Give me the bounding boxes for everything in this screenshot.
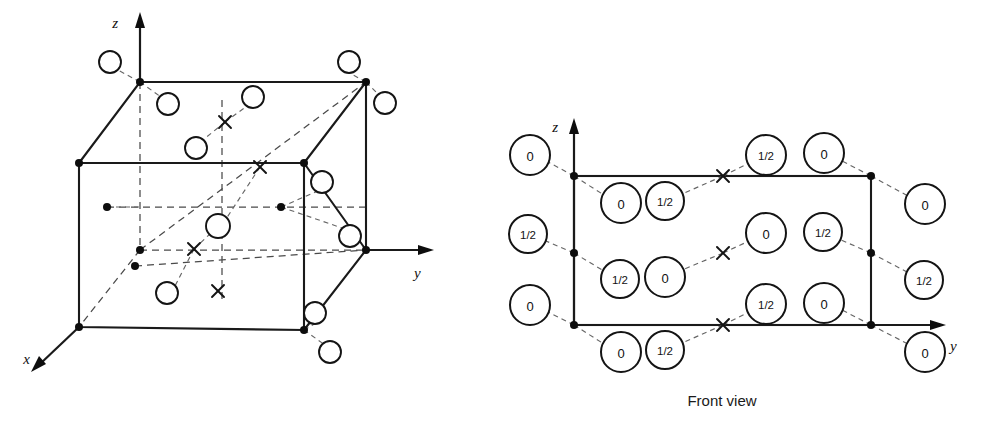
site-half-bottom-inner: 1/2	[646, 331, 684, 369]
tie-line	[682, 176, 723, 194]
lattice-point	[362, 78, 370, 86]
lattice-point	[136, 246, 144, 254]
site-value: 1/2	[916, 275, 932, 287]
site-value: 0	[617, 346, 624, 361]
z-axis-label-3d: z	[111, 15, 118, 31]
x-mark	[219, 116, 231, 128]
lattice-point	[362, 246, 370, 254]
site-value: 1/2	[758, 150, 774, 162]
site-half-mid-left-inner: 1/2	[601, 260, 639, 298]
tie-line	[548, 162, 574, 176]
tie-line	[682, 325, 723, 343]
z-axis-label-front: z	[551, 119, 558, 135]
x-axis-arrowhead	[31, 356, 46, 372]
x-axis-label-3d: x	[22, 351, 30, 367]
site-value: 0	[661, 271, 668, 286]
lattice-point	[75, 323, 83, 331]
site-value: 0	[526, 299, 533, 314]
z-axis-arrowhead-front	[569, 118, 579, 134]
atom-circle	[374, 92, 396, 114]
atom-circle	[242, 86, 264, 108]
lattice-point	[300, 159, 308, 167]
tie-line	[723, 163, 749, 176]
site-value: 0	[526, 149, 533, 164]
lattice-point	[570, 249, 578, 257]
lattice-point	[867, 321, 875, 329]
tie-line	[842, 161, 871, 176]
atom-circle	[99, 51, 121, 73]
lattice-point	[570, 172, 578, 180]
site-value: 0	[921, 346, 928, 361]
tie-line	[281, 207, 345, 229]
x-mark	[212, 285, 224, 297]
site-value: 0	[921, 198, 928, 213]
site-half-mid-left-outer: 1/2	[509, 215, 547, 253]
lattice-point-interior	[277, 203, 285, 211]
y-axis-arrowhead-3d	[418, 245, 434, 255]
y-axis-arrowhead-front	[930, 320, 946, 330]
lattice-point	[867, 249, 875, 257]
lattice-point	[75, 159, 83, 167]
site-0-top-inner-left: 0	[601, 183, 641, 223]
site-half-mid-right: 1/2	[804, 213, 842, 251]
tie-line	[723, 241, 749, 253]
site-0-mid-right-inner: 0	[746, 213, 786, 253]
lattice-point	[867, 172, 875, 180]
tie-line	[871, 325, 908, 344]
front-view-panel: 0 0 1/2 1/2 0 0	[509, 118, 957, 409]
front-view-caption: Front view	[687, 392, 756, 409]
tie-line	[175, 249, 194, 286]
tie-line	[871, 176, 908, 196]
atom-circle	[339, 225, 361, 247]
site-0-bottom-left-inner: 0	[601, 332, 641, 372]
site-value: 0	[820, 297, 827, 312]
lattice-point-interior	[131, 262, 139, 270]
z-axis-arrowhead	[135, 12, 145, 28]
atom-circle	[185, 137, 207, 159]
y-axis-label-3d: y	[412, 265, 421, 281]
hidden-edge-backbottomleft-frontbottomleft	[79, 250, 140, 327]
site-value: 1/2	[758, 299, 774, 311]
tie-line	[226, 167, 260, 219]
tie-line	[574, 253, 604, 271]
site-half-top-mid-right: 1/2	[746, 135, 786, 175]
site-half-top-inner-mid: 1/2	[646, 182, 684, 220]
site-0-bottom-right-inner: 0	[804, 283, 844, 323]
tie-line	[281, 190, 320, 207]
unit-cell-3d-panel: z y x	[0, 0, 992, 423]
site-0-top-right-outer: 0	[905, 184, 945, 224]
lattice-point	[300, 326, 308, 334]
site-value: 1/2	[612, 274, 628, 286]
lattice-point-interior	[103, 203, 111, 211]
site-0-top-right-inner: 0	[804, 133, 844, 173]
site-0-top-left: 0	[510, 135, 550, 175]
lattice-point	[570, 321, 578, 329]
crystal-structure-figure: z y x	[0, 0, 992, 423]
tie-lines-front	[546, 161, 908, 344]
site-half-bottom-mid-right: 1/2	[746, 284, 786, 324]
axes-3d	[31, 12, 434, 372]
site-value: 0	[820, 147, 827, 162]
site-0-bottom-left-outer: 0	[510, 285, 550, 325]
tie-line	[574, 176, 604, 195]
tie-line	[841, 240, 871, 253]
atom-circle	[157, 93, 179, 115]
atom-circle	[304, 302, 326, 324]
y-axis-label-front: y	[948, 338, 957, 354]
site-value: 1/2	[657, 345, 673, 357]
site-value: 0	[617, 197, 624, 212]
tie-line	[546, 241, 574, 253]
atom-circle-center	[206, 214, 230, 238]
atom-circle	[311, 171, 333, 193]
tie-line	[723, 312, 749, 325]
lattice-point	[136, 78, 144, 86]
tie-line	[871, 253, 907, 272]
x-mark	[717, 247, 729, 259]
x-axis-line	[40, 327, 79, 364]
tie-line	[574, 325, 604, 344]
tie-line	[842, 310, 871, 325]
atom-circle	[319, 341, 341, 363]
site-half-mid-right-outer: 1/2	[905, 261, 943, 299]
site-value: 0	[762, 227, 769, 242]
site-value: 1/2	[657, 196, 673, 208]
